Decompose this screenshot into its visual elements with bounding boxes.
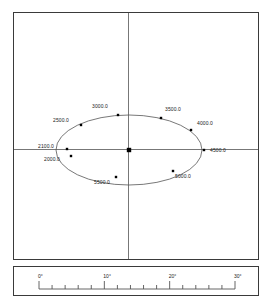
plot-canvas <box>14 13 259 260</box>
data-point[interactable] <box>117 114 119 116</box>
scale-tick-label: 30° <box>234 273 242 279</box>
chart-page: 3000.03500.04000.04500.05000.05500.02000… <box>0 0 273 308</box>
data-point[interactable] <box>115 176 117 178</box>
data-point-label: 5000.0 <box>175 173 191 179</box>
scale-tick-label: 10° <box>103 273 111 279</box>
data-point-label: 2000.0 <box>44 156 60 162</box>
data-point[interactable] <box>70 155 72 157</box>
data-point-label: 2100.0 <box>38 143 54 149</box>
data-point-label: 3000.0 <box>92 103 108 109</box>
data-point[interactable] <box>203 149 205 151</box>
scale-tick-layer <box>39 281 235 289</box>
data-point-label: 5500.0 <box>94 179 110 185</box>
data-point[interactable] <box>172 170 174 172</box>
data-point[interactable] <box>66 148 68 150</box>
scale-tick-label: 0° <box>38 273 43 279</box>
scale-bar-canvas <box>14 267 259 296</box>
data-point[interactable] <box>190 129 192 131</box>
scale-tick-label: 20° <box>169 273 177 279</box>
data-point-label: 3500.0 <box>165 106 181 112</box>
data-points-layer <box>66 114 205 178</box>
scale-bar-frame: 0°10°20°30° <box>13 266 259 296</box>
data-point-label: 2500.0 <box>53 117 69 123</box>
plot-frame: 3000.03500.04000.04500.05000.05500.02000… <box>13 12 259 260</box>
origin-marker <box>127 148 131 152</box>
origin-marker-layer <box>127 148 131 152</box>
data-point[interactable] <box>80 124 82 126</box>
data-point[interactable] <box>160 117 162 119</box>
data-point-label: 4500.0 <box>210 147 226 153</box>
data-point-label: 4000.0 <box>197 120 213 126</box>
